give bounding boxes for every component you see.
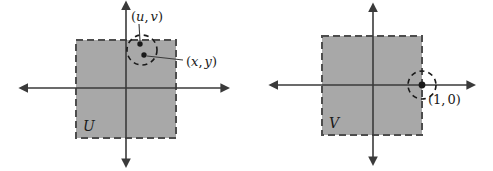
label-one-zero-first: 1 [433, 92, 441, 107]
point-uv [137, 41, 142, 46]
label-one-zero: (1,0) [428, 92, 461, 107]
label-xy-close: ) [212, 54, 217, 69]
point-xy [141, 52, 146, 57]
point-one-zero [419, 82, 426, 89]
figure-container: (u,v) (x,y) U (1,0) [0, 0, 493, 171]
label-one-zero-second: 0 [448, 92, 456, 107]
panel-left: (u,v) (x,y) U [28, 9, 222, 160]
math-diagram-svg: (u,v) (x,y) U (1,0) [0, 0, 493, 171]
label-uv-comma: , [144, 9, 148, 24]
label-xy: (x,y) [186, 54, 217, 69]
panel-right: (1,0) V [278, 12, 468, 158]
label-one-zero-close: ) [456, 92, 461, 107]
label-uv: (u,v) [131, 9, 163, 24]
label-one-zero-comma: , [441, 92, 445, 107]
label-uv-first: u [136, 9, 144, 24]
uv-leader-line [139, 24, 140, 41]
label-xy-comma: , [198, 54, 202, 69]
label-set-u: U [83, 118, 96, 134]
label-uv-close: ) [158, 9, 163, 24]
